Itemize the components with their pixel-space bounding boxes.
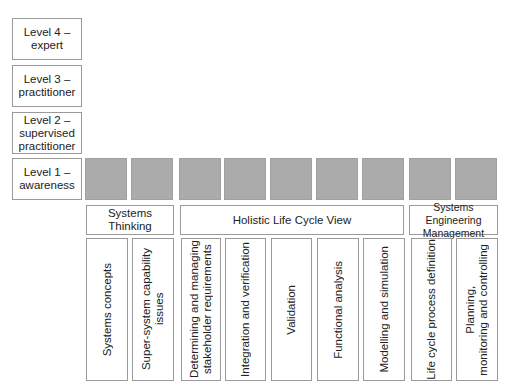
competency-planning: Planning, monitoring and controlling bbox=[456, 238, 498, 381]
competency-functional: Functional analysis bbox=[317, 238, 359, 381]
competency-validation: Validation bbox=[271, 238, 312, 381]
competency-label: Modelling and simulation bbox=[378, 246, 391, 373]
level-1-box: Level 1 – awareness bbox=[12, 158, 82, 200]
level-3-box: Level 3 – practitioner bbox=[12, 65, 82, 107]
competency-label: Planning, monitoring and controlling bbox=[464, 244, 490, 376]
level-1-label: Level 1 – awareness bbox=[19, 166, 75, 192]
level-cell-super-system bbox=[131, 158, 173, 200]
competency-stakeholder-req: Determining and managing stakeholder req… bbox=[181, 238, 221, 381]
competency-integration: Integration and verification bbox=[225, 238, 266, 381]
competency-label: Functional analysis bbox=[332, 261, 345, 359]
level-cell-stakeholder-req bbox=[179, 158, 221, 200]
level-4-label: Level 4 – expert bbox=[24, 26, 71, 52]
level-4-box: Level 4 – expert bbox=[12, 18, 82, 60]
level-2-box: Level 2 – supervised practitioner bbox=[12, 112, 82, 154]
level-cell-lifecycle bbox=[409, 158, 451, 200]
level-cell-integration bbox=[224, 158, 266, 200]
group-label: Holistic Life Cycle View bbox=[233, 214, 352, 227]
competency-label: Validation bbox=[285, 285, 298, 335]
group-holistic-life-cycle: Holistic Life Cycle View bbox=[180, 205, 404, 235]
level-cell-modelling bbox=[362, 158, 404, 200]
competency-systems-concepts: Systems concepts bbox=[86, 238, 128, 381]
group-systems-thinking: Systems Thinking bbox=[86, 205, 174, 235]
level-cell-functional bbox=[316, 158, 358, 200]
group-se-management: Systems Engineering Management bbox=[409, 205, 498, 235]
group-label: Systems Thinking bbox=[87, 207, 173, 233]
competency-label: Super-system capability issues bbox=[140, 248, 166, 370]
competency-label: Determining and managing stakeholder req… bbox=[188, 240, 214, 378]
level-2-label: Level 2 – supervised practitioner bbox=[19, 114, 76, 153]
group-label: Systems Engineering Management bbox=[410, 201, 497, 240]
level-3-label: Level 3 – practitioner bbox=[19, 73, 76, 99]
level-cell-planning bbox=[455, 158, 497, 200]
level-cell-validation bbox=[270, 158, 312, 200]
competency-label: Life cycle process definition bbox=[425, 239, 438, 380]
competency-super-system: Super-system capability issues bbox=[132, 238, 174, 381]
competency-lifecycle: Life cycle process definition bbox=[411, 238, 452, 381]
level-cell-systems-concepts bbox=[85, 158, 127, 200]
competency-label: Integration and verification bbox=[239, 242, 252, 377]
competency-label: Systems concepts bbox=[101, 263, 114, 356]
competency-modelling: Modelling and simulation bbox=[363, 238, 405, 381]
